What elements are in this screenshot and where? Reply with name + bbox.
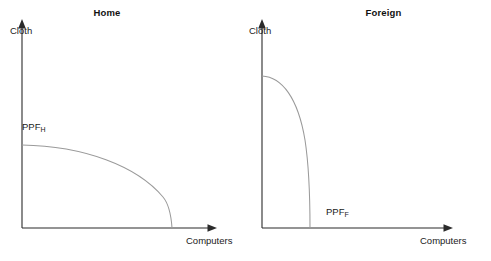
panel-home: Home Cloth Computers PPFH — [0, 0, 246, 261]
home-ppf-label: PPFH — [22, 121, 46, 132]
panel-foreign-plot — [240, 0, 491, 261]
ppf-comparison-figure: Home Cloth Computers PPFH Foreign — [0, 0, 491, 261]
home-y-axis-label: Cloth — [10, 25, 32, 36]
home-x-axis-arrow-icon — [208, 224, 218, 232]
home-ppf-curve — [22, 145, 172, 228]
foreign-x-axis-arrow-icon — [444, 224, 454, 232]
home-x-axis-label: Computers — [186, 235, 232, 246]
home-ppf-label-text: PPF — [22, 121, 40, 132]
foreign-ppf-label-subscript: F — [344, 211, 348, 218]
foreign-x-axis-label: Computers — [420, 235, 466, 246]
foreign-ppf-label-text: PPF — [326, 206, 344, 217]
home-ppf-label-subscript: H — [40, 126, 45, 133]
foreign-ppf-curve — [262, 76, 310, 228]
foreign-ppf-label: PPFF — [326, 206, 349, 217]
panel-foreign: Foreign Cloth Computers PPFF — [240, 0, 491, 261]
foreign-y-axis-label: Cloth — [249, 25, 271, 36]
